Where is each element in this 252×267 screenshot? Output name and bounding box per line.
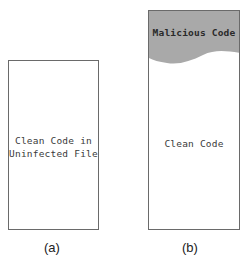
uninfected-file-box: Clean Code in Uninfected File — [8, 60, 99, 230]
label-line-2: Uninfected File — [9, 147, 98, 160]
caption-a: (a) — [44, 240, 60, 255]
clean-code-label: Clean Code in Uninfected File — [9, 134, 98, 160]
malicious-code-region — [149, 11, 240, 71]
label-line-1: Clean Code in — [9, 134, 98, 147]
infected-file-box: Malicious Code Clean Code — [148, 10, 240, 230]
malicious-code-label: Malicious Code — [149, 26, 239, 39]
caption-b: (b) — [182, 240, 198, 255]
clean-code-label: Clean Code — [149, 137, 239, 150]
